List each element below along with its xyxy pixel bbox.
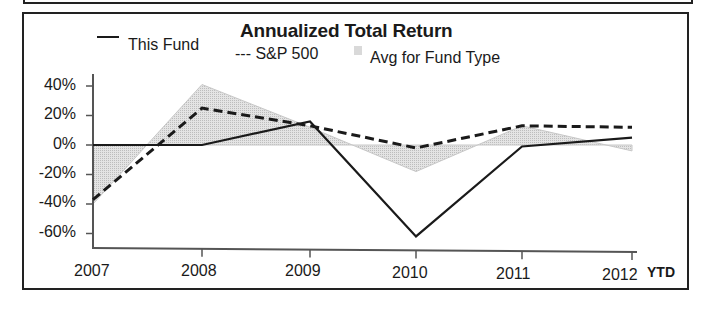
axes bbox=[93, 74, 637, 252]
plot-area bbox=[0, 0, 711, 313]
